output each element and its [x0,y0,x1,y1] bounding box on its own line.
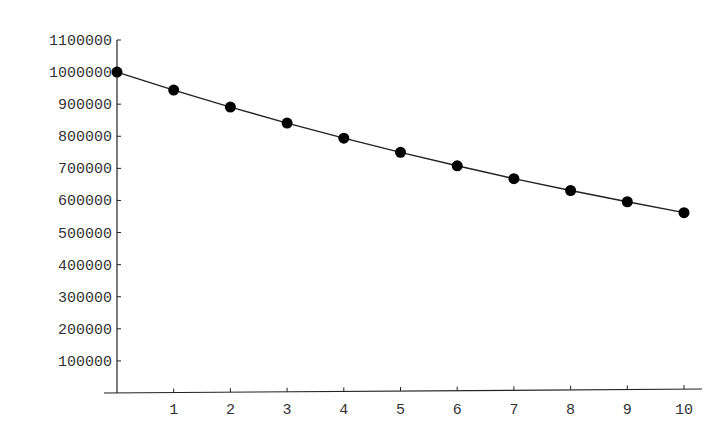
data-point [452,160,463,171]
y-tick-label: 700000 [58,161,112,178]
x-tick-label: 4 [339,402,348,419]
x-axis: 12345678910 [104,385,702,419]
data-series [112,67,690,219]
y-tick-label: 900000 [58,97,112,114]
y-tick-label: 500000 [58,226,112,243]
line-chart: 1000002000003000004000005000006000007000… [0,0,723,439]
data-point [112,67,123,78]
y-tick-label: 600000 [58,193,112,210]
x-tick-label: 2 [226,402,235,419]
x-tick-label: 3 [283,402,292,419]
x-tick-label: 8 [566,402,575,419]
data-point [679,207,690,218]
data-point [565,185,576,196]
series-line [117,72,684,213]
data-point [225,102,236,113]
x-axis-line [104,389,702,393]
y-tick-label: 100000 [58,354,112,371]
x-tick-label: 7 [509,402,518,419]
y-tick-label: 1000000 [49,65,112,82]
x-tick-label: 1 [169,402,178,419]
x-tick-label: 6 [453,402,462,419]
y-tick-label: 1100000 [49,33,112,50]
data-point [168,85,179,96]
x-tick-label: 5 [396,402,405,419]
data-point [622,196,633,207]
data-point [395,147,406,158]
y-tick-label: 400000 [58,258,112,275]
y-tick-label: 200000 [58,322,112,339]
x-tick-label: 10 [675,402,693,419]
y-tick-label: 800000 [58,129,112,146]
data-point [508,173,519,184]
x-tick-label: 9 [623,402,632,419]
data-point [338,133,349,144]
y-tick-label: 300000 [58,290,112,307]
y-axis: 1000002000003000004000005000006000007000… [49,33,121,393]
data-point [282,118,293,129]
